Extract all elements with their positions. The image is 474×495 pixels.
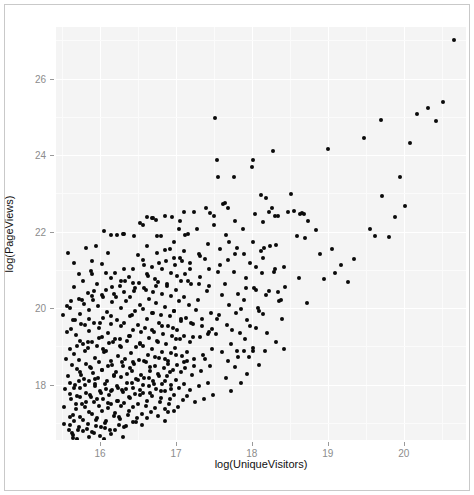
- scatter-point: [124, 424, 128, 428]
- scatter-point: [105, 379, 109, 383]
- scatter-point: [236, 355, 240, 359]
- scatter-point: [221, 202, 225, 206]
- scatter-point: [165, 374, 169, 378]
- scatter-point: [96, 304, 100, 308]
- scatter-point: [295, 234, 299, 238]
- scatter-point: [116, 399, 120, 403]
- scatter-point: [74, 402, 78, 406]
- scatter-point: [84, 400, 88, 404]
- scatter-point: [74, 333, 78, 337]
- scatter-point: [158, 400, 162, 404]
- scatter-point: [145, 399, 149, 403]
- scatter-point: [172, 409, 176, 413]
- scatter-point: [109, 389, 113, 393]
- figure-root: log(PageViews) 1820222426 1617181920 log…: [0, 0, 474, 495]
- scatter-point: [80, 298, 84, 302]
- scatter-point: [206, 332, 210, 336]
- scatter-point: [250, 165, 254, 169]
- scatter-point: [68, 392, 72, 396]
- scatter-point: [143, 326, 147, 330]
- scatter-point: [408, 141, 412, 145]
- scatter-point: [72, 285, 76, 289]
- scatter-point: [175, 274, 179, 278]
- scatter-point: [83, 405, 87, 409]
- scatter-point: [83, 323, 87, 327]
- scatter-point: [119, 306, 123, 310]
- scatter-point: [84, 246, 88, 250]
- scatter-point: [239, 307, 243, 311]
- scatter-point: [224, 233, 228, 237]
- scatter-point: [202, 397, 206, 401]
- scatter-point: [109, 314, 113, 318]
- scatter-point: [289, 192, 293, 196]
- gridline-x: [252, 27, 253, 440]
- scatter-point: [117, 423, 121, 427]
- scatter-point: [90, 272, 94, 276]
- y-tick-mark: [50, 385, 54, 386]
- scatter-point: [204, 206, 208, 210]
- scatter-point: [198, 275, 202, 279]
- scatter-point: [373, 234, 377, 238]
- scatter-point: [230, 328, 234, 332]
- scatter-point: [205, 289, 209, 293]
- scatter-point: [302, 212, 306, 216]
- scatter-point: [121, 364, 125, 368]
- scatter-point: [100, 409, 104, 413]
- gridline-y: [56, 79, 466, 80]
- gridline-y: [56, 308, 466, 309]
- scatter-point: [174, 288, 178, 292]
- scatter-point: [244, 286, 248, 290]
- scatter-point: [169, 294, 173, 298]
- scatter-point: [63, 387, 67, 391]
- scatter-point: [339, 263, 343, 267]
- scatter-point: [212, 223, 216, 227]
- scatter-point: [72, 352, 76, 356]
- scatter-point: [71, 318, 75, 322]
- scatter-point: [218, 263, 222, 267]
- scatter-point: [69, 299, 73, 303]
- scatter-point: [188, 261, 192, 265]
- scatter-point: [157, 374, 161, 378]
- scatter-point: [138, 393, 142, 397]
- scatter-point: [123, 279, 127, 283]
- scatter-point: [68, 423, 72, 427]
- scatter-point: [233, 365, 237, 369]
- scatter-point: [194, 308, 198, 312]
- scatter-point: [69, 397, 73, 401]
- y-tick-mark: [50, 79, 54, 80]
- scatter-point: [76, 428, 80, 432]
- scatter-point: [104, 387, 108, 391]
- scatter-point: [189, 282, 193, 286]
- scatter-point: [233, 219, 237, 223]
- scatter-point: [97, 326, 101, 330]
- scatter-point: [236, 292, 240, 296]
- y-tick-label: 24: [20, 150, 46, 161]
- scatter-point: [119, 345, 123, 349]
- scatter-point: [115, 318, 119, 322]
- scatter-point: [379, 118, 383, 122]
- scatter-point: [190, 373, 194, 377]
- scatter-point: [163, 214, 167, 218]
- scatter-point: [216, 270, 220, 274]
- scatter-point: [94, 424, 98, 428]
- scatter-point: [66, 251, 70, 255]
- scatter-point: [268, 244, 272, 248]
- scatter-point: [166, 324, 170, 328]
- scatter-point: [183, 366, 187, 370]
- scatter-point: [131, 405, 135, 409]
- scatter-point: [265, 331, 269, 335]
- scatter-point: [147, 384, 151, 388]
- scatter-point: [150, 328, 154, 332]
- scatter-point: [179, 279, 183, 283]
- scatter-point: [238, 331, 242, 335]
- scatter-point: [260, 271, 264, 275]
- scatter-point: [87, 435, 91, 439]
- scatter-point: [264, 293, 268, 297]
- scatter-point: [261, 220, 265, 224]
- scatter-point: [113, 271, 117, 275]
- scatter-point: [157, 261, 161, 265]
- scatter-point: [131, 328, 135, 332]
- scatter-point: [242, 349, 246, 353]
- scatter-point: [130, 313, 134, 317]
- scatter-point: [169, 387, 173, 391]
